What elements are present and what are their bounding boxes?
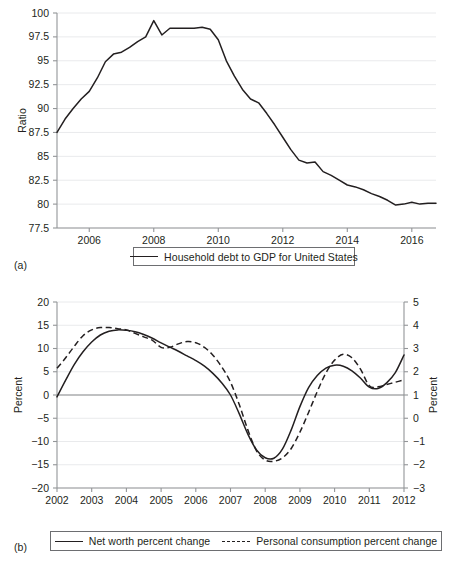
y-tick-label: 77.5 bbox=[29, 222, 50, 234]
y-tick-label-left: 5 bbox=[43, 365, 49, 377]
x-tick-label: 2009 bbox=[288, 494, 312, 506]
x-tick-label: 2014 bbox=[336, 234, 360, 245]
x-tick-label: 2010 bbox=[207, 234, 231, 245]
y-tick-label-right: 3 bbox=[413, 342, 419, 354]
figure-b: −20−15−10−505101520−3−2−1012345200220032… bbox=[0, 288, 454, 565]
y-tick-label: 97.5 bbox=[29, 30, 50, 42]
legend-b: Net worth percent change Personal consum… bbox=[50, 531, 442, 551]
legend-entry: Household debt to GDP for United States bbox=[130, 251, 358, 263]
x-tick-label: 2004 bbox=[115, 494, 139, 506]
y-tick-label: 85 bbox=[37, 150, 49, 162]
y-tick-label: 95 bbox=[37, 54, 49, 66]
figure-a: 77.58082.58587.59092.59597.5100200620082… bbox=[0, 0, 454, 288]
y-tick-label: 90 bbox=[37, 102, 49, 114]
panel-label-a: (a) bbox=[14, 259, 27, 271]
y-tick-label-left: 0 bbox=[43, 389, 49, 401]
y-tick-label-left: −15 bbox=[31, 458, 49, 470]
y-axis-title: Ratio bbox=[16, 108, 28, 133]
x-tick-label: 2002 bbox=[45, 494, 69, 506]
legend-label: Personal consumption percent change bbox=[256, 535, 437, 547]
y-tick-label-right: 1 bbox=[413, 389, 419, 401]
x-tick-label: 2016 bbox=[400, 234, 424, 245]
legend-a: Household debt to GDP for United States bbox=[133, 247, 355, 266]
y-tick-label-right: 2 bbox=[413, 365, 419, 377]
y-axis-title-right: Percent bbox=[427, 377, 439, 413]
x-tick-label: 2007 bbox=[219, 494, 243, 506]
x-tick-label: 2010 bbox=[323, 494, 347, 506]
y-tick-label-right: −2 bbox=[413, 458, 425, 470]
y-tick-label: 82.5 bbox=[29, 174, 50, 186]
x-tick-label: 2003 bbox=[80, 494, 104, 506]
y-axis-title-left: Percent bbox=[12, 377, 24, 413]
x-tick-label: 2006 bbox=[184, 494, 208, 506]
y-tick-label: 92.5 bbox=[29, 78, 50, 90]
x-tick-label: 2005 bbox=[149, 494, 173, 506]
chart-a-canvas: 77.58082.58587.59092.59597.5100200620082… bbox=[0, 0, 454, 245]
y-tick-label: 100 bbox=[31, 7, 49, 19]
series-household-debt-to-gdp bbox=[57, 21, 436, 205]
y-tick-label: 87.5 bbox=[29, 126, 50, 138]
y-tick-label-left: 20 bbox=[37, 296, 49, 308]
y-tick-label-left: −5 bbox=[37, 412, 49, 424]
y-tick-label-right: 0 bbox=[413, 412, 419, 424]
chart-b-canvas: −20−15−10−505101520−3−2−1012345200220032… bbox=[0, 288, 454, 528]
y-tick-label-left: −10 bbox=[31, 435, 49, 447]
y-tick-label-right: 5 bbox=[413, 296, 419, 308]
legend-dashed-line-icon bbox=[222, 537, 250, 546]
panel-label-b: (b) bbox=[14, 541, 27, 553]
x-tick-label: 2008 bbox=[254, 494, 278, 506]
x-tick-label: 2006 bbox=[78, 234, 102, 245]
x-tick-label: 2008 bbox=[142, 234, 166, 245]
x-tick-label: 2012 bbox=[271, 234, 295, 245]
x-tick-label: 2011 bbox=[358, 494, 381, 506]
y-tick-label-left: 15 bbox=[37, 319, 49, 331]
legend-entry: Net worth percent change bbox=[55, 535, 210, 547]
legend-label: Net worth percent change bbox=[89, 535, 210, 547]
y-tick-label-right: −3 bbox=[413, 482, 425, 494]
x-tick-label: 2012 bbox=[392, 494, 416, 506]
y-tick-label-left: 10 bbox=[37, 342, 49, 354]
legend-line-icon bbox=[130, 252, 158, 261]
legend-label: Household debt to GDP for United States bbox=[164, 251, 358, 263]
legend-line-icon bbox=[55, 537, 83, 546]
legend-entry: Personal consumption percent change bbox=[222, 535, 437, 547]
y-tick-label: 80 bbox=[37, 198, 49, 210]
y-tick-label-right: −1 bbox=[413, 435, 425, 447]
y-tick-label-right: 4 bbox=[413, 319, 419, 331]
y-tick-label-left: −20 bbox=[31, 482, 49, 494]
